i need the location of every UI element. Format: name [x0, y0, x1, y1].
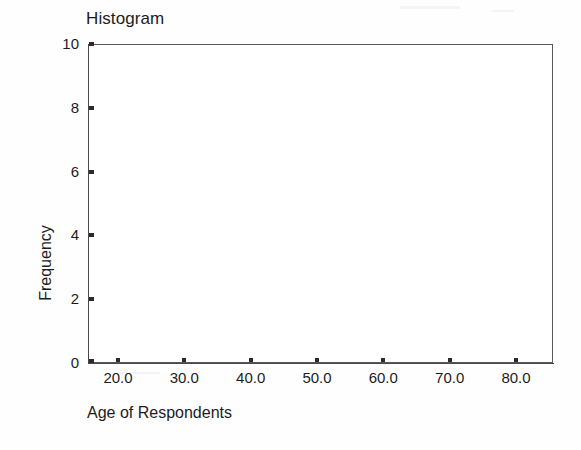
- y-tick-mark: [89, 170, 94, 174]
- x-tick-label: 70.0: [416, 369, 484, 387]
- y-tick-mark: [89, 359, 94, 363]
- x-tick-label: 80.0: [482, 369, 550, 387]
- x-axis-title: Age of Respondents: [87, 403, 232, 423]
- x-axis-line: [88, 363, 554, 364]
- y-axis-line: [88, 44, 89, 364]
- x-tick-mark: [116, 358, 120, 362]
- y-tick-mark: [89, 106, 94, 110]
- x-tick-mark: [381, 358, 385, 362]
- x-tick-mark: [182, 358, 186, 362]
- y-axis-title: Frequency: [36, 198, 56, 328]
- y-tick-label: 10: [62, 35, 79, 52]
- scan-artifact: [492, 10, 514, 12]
- y-tick-mark: [89, 42, 94, 46]
- y-tick-label: 8: [71, 99, 79, 116]
- plot-area: [88, 44, 553, 363]
- y-tick-label: 2: [71, 290, 79, 307]
- y-tick-label: 0: [71, 354, 79, 371]
- x-tick-label: 50.0: [283, 369, 351, 387]
- x-tick-label: 30.0: [150, 369, 218, 387]
- x-tick-mark: [315, 358, 319, 362]
- y-tick-mark: [89, 233, 94, 237]
- x-tick-mark: [448, 358, 452, 362]
- x-tick-label: 60.0: [349, 369, 417, 387]
- y-tick-label: 6: [71, 163, 79, 180]
- x-tick-label: 40.0: [217, 369, 285, 387]
- scan-artifact: [400, 6, 460, 9]
- x-tick-mark: [514, 358, 518, 362]
- y-tick-label: 4: [71, 226, 79, 243]
- plot-canvas: [89, 45, 552, 362]
- chart-title: Histogram: [86, 9, 164, 29]
- histogram-figure: Histogram 10 8 6 4 2 0 20.0 30.0 40.0: [0, 0, 581, 450]
- y-tick-mark: [89, 297, 94, 301]
- x-tick-mark: [249, 358, 253, 362]
- x-tick-label: 20.0: [84, 369, 152, 387]
